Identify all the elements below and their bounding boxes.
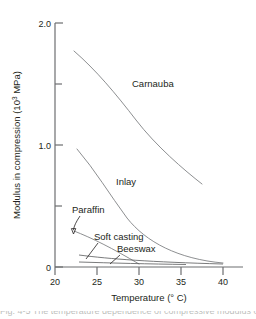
series-curve-carnauba (74, 51, 202, 184)
x-tick-label-35: 35 (176, 277, 186, 287)
x-axis-title: Temperature (° C) (111, 292, 187, 303)
series-label-beeswax: Beeswax (117, 243, 156, 254)
y-axis-title-tail: MPa) (11, 71, 22, 96)
figure-caption-text: Fig. 4-5 The temperature dependence of c… (0, 311, 256, 316)
series-label-inlay: Inlay (116, 176, 136, 187)
series-label-paraffin: Paraffin (72, 204, 105, 215)
y-axis-title: Modulus in compression (103 MPa) (11, 71, 23, 219)
y-axis: 2.0 1.0 0 (38, 19, 63, 273)
x-tick-label-25: 25 (92, 277, 102, 287)
chart-canvas: 2.0 1.0 0 Modulus in compression (103 MP… (0, 0, 256, 319)
x-tick-label-30: 30 (134, 277, 144, 287)
paraffin-arrow-line (74, 216, 81, 230)
beeswax-leader-line (110, 255, 120, 264)
series-label-carnauba: Carnauba (132, 78, 174, 89)
y-axis-title-main: Modulus in compression (10 (11, 100, 22, 219)
series-label-soft-casting: Soft casting (94, 231, 144, 242)
figure-container: 2.0 1.0 0 Modulus in compression (103 MP… (0, 0, 256, 319)
x-tick-label-40: 40 (218, 277, 228, 287)
x-tick-label-20: 20 (50, 277, 60, 287)
y-tick-label-1.0: 1.0 (38, 141, 51, 151)
y-tick-label-2.0: 2.0 (38, 19, 51, 29)
y-tick-label-0: 0 (46, 263, 51, 273)
x-axis: 20 25 30 35 40 Temperature (° C) (50, 267, 243, 303)
svg-text:Modulus in compression (103 MP: Modulus in compression (103 MPa) (11, 71, 23, 219)
figure-caption-sliver: Fig. 4-5 The temperature dependence of c… (0, 311, 256, 319)
